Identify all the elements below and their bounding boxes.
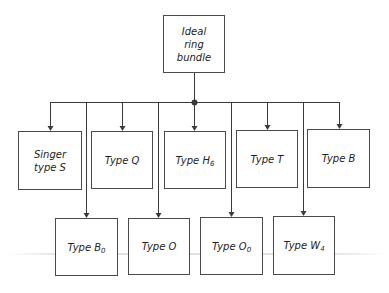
node-type-b0: Type B0 bbox=[55, 218, 118, 276]
node-type-t: Type T bbox=[236, 130, 298, 188]
hierarchy-diagram: Ideal ring bundle Singer type S Type Q T… bbox=[0, 0, 389, 293]
node-type-b: Type B bbox=[307, 129, 370, 188]
node-type-o0: Type O0 bbox=[200, 217, 263, 275]
node-label: Type Q bbox=[105, 154, 140, 167]
node-type-q: Type Q bbox=[91, 131, 153, 189]
node-label: Type B bbox=[322, 152, 356, 165]
node-label: Type O bbox=[142, 240, 177, 253]
node-singer-type-s: Singer type S bbox=[18, 131, 82, 190]
node-type-h6: Type H6 bbox=[164, 131, 226, 189]
node-label: Type W4 bbox=[283, 239, 324, 252]
node-label: Singer type S bbox=[34, 148, 66, 174]
node-label: Type H6 bbox=[176, 154, 215, 167]
node-type-o: Type O bbox=[128, 218, 190, 275]
node-label: Type B0 bbox=[67, 241, 105, 254]
node-ideal-ring-bundle: Ideal ring bundle bbox=[163, 15, 225, 73]
node-type-w4: Type W4 bbox=[273, 216, 335, 275]
node-label: Ideal ring bundle bbox=[177, 25, 211, 64]
node-label: Type T bbox=[251, 153, 284, 166]
node-label: Type O0 bbox=[212, 240, 251, 253]
